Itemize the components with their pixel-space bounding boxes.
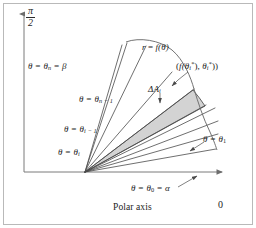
polar-diagram-canvas (0, 0, 256, 228)
theta-0-lhs: θ = θ (131, 183, 151, 193)
label-theta-0-equals-alpha: θ = θ0 = α (131, 184, 170, 193)
theta-1-lhs: θ = θ (203, 134, 223, 144)
label-polar-axis: Polar axis (113, 203, 152, 213)
label-theta-1: θ = θ1 (203, 135, 226, 144)
label-curve-r-equals-f-theta: r = f(θ) (142, 43, 169, 52)
ray-theta-3 (85, 108, 215, 172)
theta-n-lhs: θ = θ (28, 61, 48, 71)
two-denominator: 2 (26, 17, 35, 29)
label-sample-point: (f(θi*), θi*)) (176, 61, 218, 71)
label-theta-n-minus-1: θ = θn − 1 (79, 95, 113, 104)
theta-nm1-subscript: n − 1 (99, 97, 113, 104)
delta-a-lhs: ΔA (148, 84, 159, 94)
curve-arg: (θ) (158, 42, 169, 52)
polar-area-figure: π 2 θ = θn = β θ = θn − 1 θ = θi − 1 θ =… (0, 0, 256, 228)
theta-im1-lhs: θ = θ (64, 124, 84, 134)
label-delta-area-i: ΔAi (148, 85, 161, 94)
theta-1-subscript: 1 (223, 137, 226, 144)
theta-im1-subscript: i − 1 (84, 127, 97, 134)
point-close-paren: )) (212, 61, 218, 71)
leader-to-theta-0 (178, 176, 197, 187)
label-theta-i: θ = θi (58, 148, 80, 157)
axis-label-pi-over-2: π 2 (26, 6, 35, 28)
pi-numerator: π (26, 6, 35, 17)
delta-a-subscript: i (159, 87, 161, 94)
theta-nm1-lhs: θ = θ (79, 94, 99, 104)
theta-i-subscript: i (78, 150, 80, 157)
curve-equals: = (146, 42, 156, 52)
theta-n-rhs: = β (51, 61, 66, 71)
label-theta-n-equals-beta: θ = θn = β (28, 62, 67, 71)
leader-to-sample-point (172, 72, 188, 86)
leader-to-theta-1 (190, 142, 204, 151)
theta-i-lhs: θ = θ (58, 147, 78, 157)
theta-0-rhs: = α (154, 183, 170, 193)
label-axis-origin-zero: 0 (218, 200, 223, 210)
leader-lines-group (160, 72, 204, 187)
label-theta-i-minus-1: θ = θi − 1 (64, 125, 97, 134)
